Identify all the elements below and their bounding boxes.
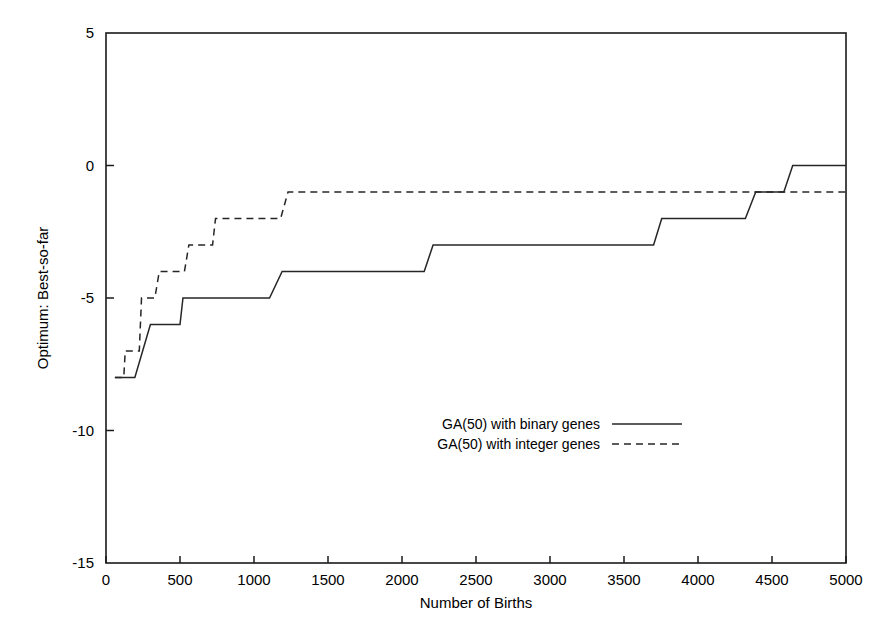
y-axis-ticks — [106, 166, 114, 431]
legend-label-2: GA(50) with integer genes — [437, 436, 600, 452]
x-tick-label: 4000 — [681, 571, 714, 588]
y-tick-label: -10 — [72, 422, 94, 439]
x-axis-title: Number of Births — [420, 594, 533, 611]
x-axis-ticks — [106, 556, 846, 563]
data-series-group — [115, 166, 846, 378]
x-tick-label: 1000 — [237, 571, 270, 588]
x-tick-label: 0 — [102, 571, 110, 588]
x-tick-label: 2000 — [385, 571, 418, 588]
series-line-1 — [115, 166, 846, 378]
x-tick-label: 500 — [167, 571, 192, 588]
series-line-2 — [115, 192, 846, 378]
y-tick-label: -15 — [72, 554, 94, 571]
x-axis-tick-labels: 0500100015002000250030003500400045005000 — [102, 571, 863, 588]
y-tick-label: -5 — [81, 289, 94, 306]
y-tick-label: 5 — [86, 24, 94, 41]
y-axis-tick-labels: 50-5-10-15 — [72, 24, 94, 571]
x-tick-label: 1500 — [311, 571, 344, 588]
x-tick-label: 4500 — [755, 571, 788, 588]
x-tick-label: 3500 — [607, 571, 640, 588]
legend-label-1: GA(50) with binary genes — [442, 416, 600, 432]
x-tick-label: 5000 — [829, 571, 862, 588]
chart-figure: 0500100015002000250030003500400045005000… — [0, 0, 880, 634]
y-tick-label: 0 — [86, 157, 94, 174]
y-axis-title: Optimum: Best-so-far — [34, 227, 51, 370]
chart-canvas: 0500100015002000250030003500400045005000… — [0, 0, 880, 634]
x-tick-label: 3000 — [533, 571, 566, 588]
x-tick-label: 2500 — [459, 571, 492, 588]
chart-legend: GA(50) with binary genesGA(50) with inte… — [437, 416, 682, 452]
